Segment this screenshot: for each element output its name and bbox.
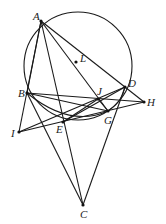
point-G <box>106 109 109 112</box>
point-D <box>123 85 126 88</box>
segment-IH <box>19 102 144 132</box>
label-D: D <box>127 77 136 89</box>
point-J <box>96 97 99 100</box>
segment-BH <box>27 93 144 102</box>
segment-BC <box>27 93 83 205</box>
point-B <box>25 91 28 94</box>
label-B: B <box>18 87 25 99</box>
label-L: L <box>79 52 86 64</box>
point-H <box>142 100 145 103</box>
label-H: H <box>146 96 156 108</box>
point-A <box>39 19 42 22</box>
label-J: J <box>97 85 103 97</box>
point-I <box>17 130 20 133</box>
geometry-diagram: ALBDJHGEIC <box>0 0 166 224</box>
label-E: E <box>55 123 63 135</box>
label-I: I <box>10 127 16 139</box>
point-L <box>74 60 77 63</box>
label-C: C <box>80 208 88 220</box>
point-C <box>81 203 84 206</box>
label-G: G <box>104 114 112 126</box>
label-A: A <box>32 10 40 22</box>
